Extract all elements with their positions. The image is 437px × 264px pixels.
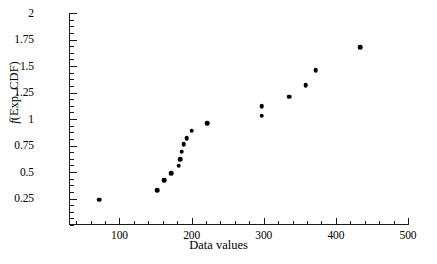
y-tick-major <box>70 199 77 200</box>
x-tick-minor <box>220 221 221 225</box>
y-tick-minor <box>70 212 74 213</box>
x-tick-minor <box>134 221 135 225</box>
x-tick-minor <box>177 221 178 225</box>
x-tick-major <box>336 218 337 225</box>
data-point <box>97 197 102 202</box>
y-tick-minor <box>70 152 74 153</box>
plot-area: 0.250.50.7511.251.51.752 100200300400500 <box>69 13 408 225</box>
x-tick-minor <box>91 221 92 225</box>
x-tick-major <box>408 218 409 225</box>
y-axis-title-italic-f: f <box>7 120 21 123</box>
y-tick-minor <box>70 185 74 186</box>
x-tick-minor <box>148 221 149 225</box>
data-point <box>189 128 194 133</box>
data-point <box>179 150 184 155</box>
data-point <box>259 114 264 119</box>
data-point <box>181 142 186 147</box>
x-tick-major <box>192 218 193 225</box>
data-point <box>176 163 181 168</box>
x-tick-major <box>119 218 120 225</box>
y-tick-minor <box>70 86 74 87</box>
y-tick-label: 2 <box>28 8 34 20</box>
x-tick-minor <box>293 221 294 225</box>
y-tick-minor <box>70 26 74 27</box>
data-point <box>178 157 183 162</box>
y-tick-minor <box>70 99 74 100</box>
y-tick-minor <box>70 192 74 193</box>
x-tick-minor <box>365 221 366 225</box>
y-tick-minor <box>70 126 74 127</box>
y-tick-major <box>70 172 77 173</box>
data-point <box>287 94 292 99</box>
y-tick-label: 1.5 <box>20 61 34 73</box>
y-tick-minor <box>70 59 74 60</box>
y-tick-minor <box>70 33 74 34</box>
x-tick-minor <box>307 221 308 225</box>
data-point <box>184 136 189 141</box>
data-point <box>155 188 160 193</box>
y-tick-minor <box>70 225 74 226</box>
data-point <box>259 104 264 109</box>
data-point <box>358 45 363 50</box>
data-point <box>169 171 174 176</box>
y-tick-major <box>70 66 77 67</box>
data-point <box>205 121 210 126</box>
data-point <box>313 68 318 73</box>
y-tick-major <box>70 93 77 94</box>
y-tick-minor <box>70 53 74 54</box>
y-tick-minor <box>70 165 74 166</box>
y-tick-minor <box>70 20 74 21</box>
y-tick-minor <box>70 106 74 107</box>
x-tick-minor <box>76 221 77 225</box>
data-point <box>162 178 167 183</box>
x-tick-minor <box>278 221 279 225</box>
x-tick-minor <box>163 221 164 225</box>
y-axis-title-rest: (Exp. CDF) <box>7 61 21 120</box>
y-tick-minor <box>70 159 74 160</box>
x-tick-minor <box>379 221 380 225</box>
y-axis-title: f(Exp. CDF) <box>8 33 21 153</box>
x-tick-major <box>264 218 265 225</box>
y-tick-label: 1 <box>28 114 34 126</box>
y-tick-major <box>70 40 77 41</box>
y-tick-minor <box>70 112 74 113</box>
y-tick-minor <box>70 79 74 80</box>
y-tick-label: 0.25 <box>14 193 34 205</box>
x-tick-minor <box>394 221 395 225</box>
y-tick-minor <box>70 218 74 219</box>
y-tick-major <box>70 146 77 147</box>
x-tick-minor <box>235 221 236 225</box>
x-axis-title: Data values <box>0 239 437 252</box>
x-tick-minor <box>249 221 250 225</box>
y-tick-minor <box>70 132 74 133</box>
y-tick-major <box>70 119 77 120</box>
y-tick-minor <box>70 179 74 180</box>
y-tick-major <box>70 13 77 14</box>
x-tick-minor <box>105 221 106 225</box>
scatter-chart-figure: 0.250.50.7511.251.51.752 100200300400500… <box>0 0 437 264</box>
y-tick-minor <box>70 46 74 47</box>
y-tick-minor <box>70 205 74 206</box>
data-point <box>303 83 308 88</box>
x-tick-minor <box>350 221 351 225</box>
y-tick-label: 0.5 <box>20 167 34 179</box>
x-tick-minor <box>321 221 322 225</box>
y-tick-minor <box>70 73 74 74</box>
y-tick-minor <box>70 139 74 140</box>
x-tick-minor <box>206 221 207 225</box>
